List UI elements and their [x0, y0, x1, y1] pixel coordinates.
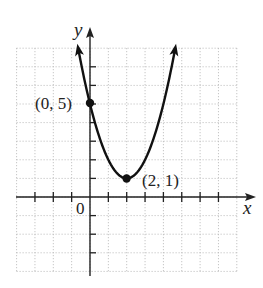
point-0-5-marker [86, 99, 94, 107]
x-axis-label: x [242, 197, 252, 218]
parabola-graph: y x 0 (0, 5) (2, 1) [0, 0, 263, 288]
origin-label: 0 [76, 199, 85, 218]
point-2-1-label: (2, 1) [142, 171, 179, 190]
y-axis-label: y [72, 19, 83, 40]
point-2-1-marker [122, 174, 130, 182]
grid [17, 48, 237, 271]
point-0-5-label: (0, 5) [35, 94, 72, 113]
